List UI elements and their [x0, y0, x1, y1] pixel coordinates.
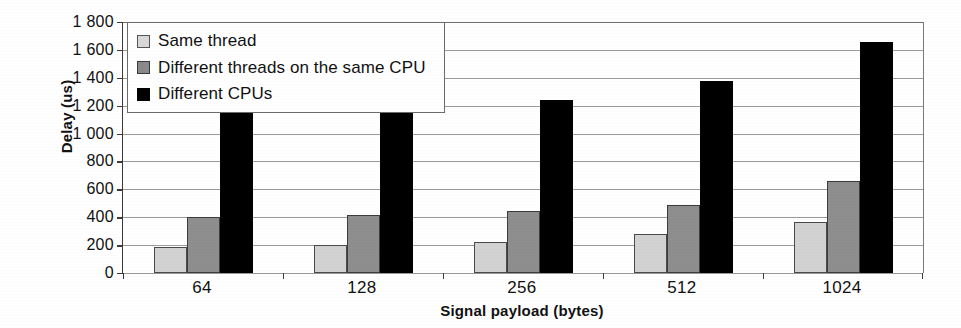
y-axis-tick-labels: 1 8001 6001 4001 2001 0008006004002000 [46, 0, 118, 328]
bar [540, 100, 573, 273]
legend-swatch-icon [137, 61, 150, 74]
bar-group [443, 22, 603, 273]
bar [380, 107, 413, 273]
y-axis-tick-mark [117, 217, 123, 218]
bar [667, 205, 700, 273]
bar [794, 222, 827, 273]
y-axis-tick-label: 600 [86, 181, 114, 197]
plot-right-edge [923, 22, 924, 273]
x-axis-tick-label: 512 [602, 278, 762, 302]
y-axis-tick-mark [117, 189, 123, 190]
bar [507, 211, 540, 273]
y-axis-tick-mark [117, 273, 123, 274]
legend-swatch-icon [137, 88, 150, 101]
y-axis-tick-mark [117, 245, 123, 246]
legend-item-label: Different threads on the same CPU [158, 58, 426, 78]
y-axis-tick-mark [117, 50, 123, 51]
y-axis-tick-label: 1 200 [72, 98, 114, 114]
gridline [123, 273, 923, 274]
y-axis-tick-mark [117, 161, 123, 162]
y-axis-tick-label: 1 400 [72, 70, 114, 86]
y-axis-tick-label: 0 [105, 265, 114, 281]
x-axis-title: Signal payload (bytes) [122, 302, 922, 319]
bar [220, 111, 253, 273]
legend-item-label: Same thread [158, 31, 256, 51]
bar [474, 242, 507, 273]
bar [634, 234, 667, 273]
legend-item-label: Different CPUs [158, 84, 272, 104]
bar [154, 247, 187, 273]
bar [187, 217, 220, 273]
y-axis-tick-mark [117, 134, 123, 135]
y-axis-tick-label: 400 [86, 209, 114, 225]
x-axis-tick-label: 256 [442, 278, 602, 302]
legend-item: Different CPUs [137, 81, 436, 107]
bar [860, 42, 893, 273]
x-axis-tick-label: 1024 [762, 278, 922, 302]
x-axis-tick-labels: 641282565121024 [122, 278, 922, 302]
y-axis-tick-mark [117, 22, 123, 23]
x-axis-tick-label: 128 [282, 278, 442, 302]
y-axis-tick-label: 1 800 [72, 14, 114, 30]
chart-figure: Delay (us) 1 8001 6001 4001 2001 0008006… [0, 0, 961, 328]
bar [827, 181, 860, 273]
bar [700, 81, 733, 273]
legend-item: Different threads on the same CPU [137, 55, 436, 81]
y-axis-tick-label: 800 [86, 153, 114, 169]
legend-item: Same thread [137, 28, 436, 54]
x-axis-tick-label: 64 [122, 278, 282, 302]
bar [314, 245, 347, 273]
legend-swatch-icon [137, 35, 150, 48]
bar-group [763, 22, 923, 273]
y-axis-tick-label: 1 600 [72, 42, 114, 58]
chart-legend: Same threadDifferent threads on the same… [127, 22, 445, 113]
bar-group [603, 22, 763, 273]
y-axis-tick-mark [117, 106, 123, 107]
y-axis-tick-label: 200 [86, 237, 114, 253]
y-axis-tick-mark [117, 78, 123, 79]
y-axis-tick-label: 1 000 [72, 126, 114, 142]
bar [347, 215, 380, 273]
